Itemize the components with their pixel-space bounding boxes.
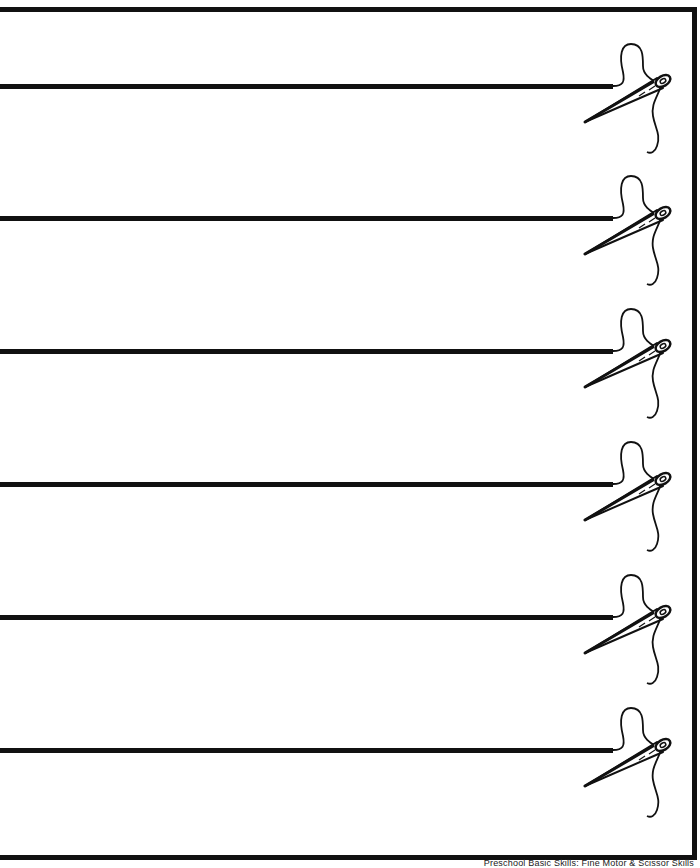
footer-credit: Preschool Basic Skills: Fine Motor & Sci… xyxy=(484,858,694,868)
cutting-line xyxy=(0,349,613,354)
cutting-row-5 xyxy=(0,573,700,703)
needle-and-thread-icon xyxy=(613,42,700,172)
needle-and-thread-icon xyxy=(613,174,700,304)
needle-and-thread-icon xyxy=(613,706,700,836)
cutting-row-2 xyxy=(0,174,700,304)
cutting-line xyxy=(0,748,613,753)
cutting-row-1 xyxy=(0,42,700,172)
cutting-row-6 xyxy=(0,706,700,836)
cutting-line xyxy=(0,482,613,487)
needle-and-thread-icon xyxy=(613,307,700,437)
cutting-row-4 xyxy=(0,440,700,570)
needle-and-thread-icon xyxy=(613,440,700,570)
cutting-line xyxy=(0,84,613,89)
cutting-line xyxy=(0,216,613,221)
needle-and-thread-icon xyxy=(613,573,700,703)
cutting-row-3 xyxy=(0,307,700,437)
cutting-line xyxy=(0,615,613,620)
